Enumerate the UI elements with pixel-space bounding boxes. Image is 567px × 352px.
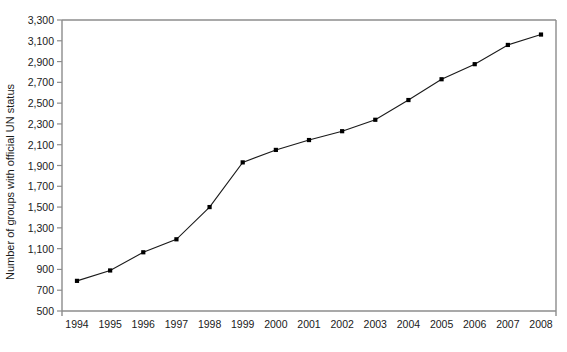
y-tick-label: 2,500	[28, 97, 54, 109]
x-tick-label: 1996	[132, 318, 156, 330]
data-point-marker	[473, 62, 477, 66]
x-axis-labels: 1994199519961997199819992000200120022003…	[65, 318, 553, 330]
y-tick-label: 2,300	[28, 118, 54, 130]
data-point-marker	[340, 129, 344, 133]
x-tick-label: 1994	[65, 318, 89, 330]
x-tick-label: 2000	[264, 318, 288, 330]
line-chart: Number of groups with official UN status…	[0, 0, 567, 352]
data-point-marker	[207, 205, 211, 209]
y-tick-label: 3,300	[28, 14, 54, 26]
y-tick-label: 1,100	[28, 243, 54, 255]
y-axis-title-group: Number of groups with official UN status	[4, 83, 16, 280]
x-tick-label: 2002	[330, 318, 354, 330]
y-tick-label: 900	[36, 263, 54, 275]
data-point-marker	[174, 237, 178, 241]
x-tick-label: 2001	[297, 318, 321, 330]
x-tick-label: 1999	[231, 318, 255, 330]
x-tick-label: 2007	[496, 318, 520, 330]
data-point-marker	[539, 32, 543, 36]
data-point-marker	[373, 118, 377, 122]
data-point-marker	[141, 250, 145, 254]
y-tick-label: 1,500	[28, 201, 54, 213]
data-point-marker	[406, 98, 410, 102]
chart-canvas: Number of groups with official UN status…	[0, 0, 567, 352]
chart-background	[0, 0, 567, 352]
y-tick-label: 2,700	[28, 76, 54, 88]
x-tick-label: 2003	[364, 318, 388, 330]
data-point-marker	[241, 160, 245, 164]
data-point-marker	[307, 138, 311, 142]
y-tick-label: 1,900	[28, 160, 54, 172]
data-point-marker	[75, 279, 79, 283]
x-tick-label: 2008	[529, 318, 553, 330]
y-tick-label: 1,300	[28, 222, 54, 234]
y-tick-label: 2,100	[28, 139, 54, 151]
data-point-marker	[274, 148, 278, 152]
x-tick-label: 2005	[430, 318, 454, 330]
x-tick-label: 1997	[165, 318, 189, 330]
y-tick-label: 1,700	[28, 180, 54, 192]
data-point-marker	[108, 268, 112, 272]
y-tick-label: 700	[36, 284, 54, 296]
data-point-marker	[439, 77, 443, 81]
x-tick-label: 1998	[198, 318, 222, 330]
y-axis-title: Number of groups with official UN status	[4, 83, 16, 280]
x-tick-label: 2004	[397, 318, 421, 330]
data-point-marker	[506, 43, 510, 47]
y-tick-label: 3,100	[28, 35, 54, 47]
x-tick-label: 1995	[98, 318, 122, 330]
y-tick-label: 2,900	[28, 56, 54, 68]
x-tick-label: 2006	[463, 318, 487, 330]
y-tick-label: 500	[36, 305, 54, 317]
